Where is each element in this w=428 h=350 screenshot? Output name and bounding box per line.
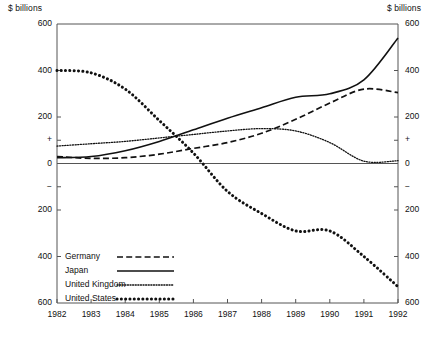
y-tick-label-right: 200 — [405, 111, 419, 121]
series-line-united-states — [57, 71, 398, 287]
y-tick-label-right: + — [405, 134, 410, 144]
y-tick-label-left: 600 — [14, 18, 52, 28]
legend-label-japan: Japan — [65, 265, 88, 275]
y-tick-label-left: 0 — [14, 158, 52, 168]
y-tick-label-left: 400 — [14, 65, 52, 75]
y-tick-label-right: 600 — [405, 297, 419, 307]
y-tick-label-right: 0 — [405, 158, 410, 168]
y-tick-label-left: − — [14, 181, 52, 191]
series-line-germany — [57, 89, 398, 159]
y-tick-label-right: 400 — [405, 251, 419, 261]
y-tick-label-left: 200 — [14, 204, 52, 214]
legend-label-united-states: United States — [65, 293, 116, 303]
chart-container: $ billions $ billions 600400200+0−200400… — [0, 0, 428, 350]
y-tick-label-left: 400 — [14, 251, 52, 261]
y-tick-label-right: 600 — [405, 18, 419, 28]
x-tick-label: 1992 — [378, 309, 418, 319]
y-tick-label-right: 400 — [405, 65, 419, 75]
legend-label-united-kingdom: United Kingdom — [65, 279, 125, 289]
y-tick-label-left: 600 — [14, 297, 52, 307]
y-tick-label-right: − — [405, 181, 410, 191]
series-line-united-kingdom — [57, 129, 398, 163]
y-tick-label-left: 200 — [14, 111, 52, 121]
series-line-japan — [57, 38, 398, 158]
y-tick-label-left: + — [14, 134, 52, 144]
legend-label-germany: Germany — [65, 251, 100, 261]
y-tick-label-right: 200 — [405, 204, 419, 214]
